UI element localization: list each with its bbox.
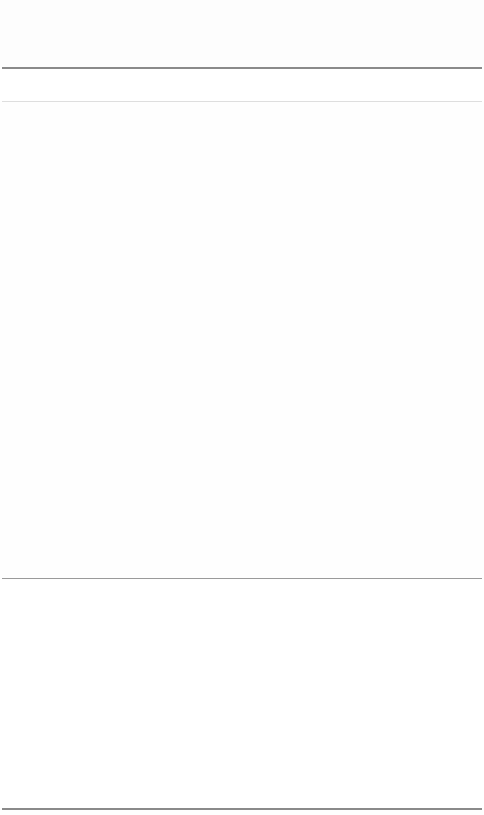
blank-page [0, 0, 484, 815]
section-divider [2, 578, 482, 579]
header-area [0, 0, 484, 67]
lower-section [0, 580, 484, 808]
bottom-divider [2, 808, 482, 810]
toolbar-area [0, 69, 484, 101]
main-content-area [0, 102, 484, 578]
